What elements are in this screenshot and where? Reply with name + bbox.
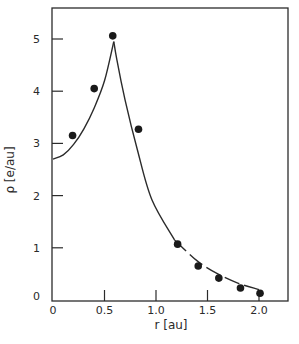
theory-curve (53, 42, 259, 290)
x-tick-label: 2.0 (250, 304, 268, 317)
plot-frame (52, 8, 288, 301)
y-tick-label: 2 (30, 189, 40, 202)
data-point (90, 85, 98, 93)
y-tick-label: 1 (30, 241, 40, 254)
plot-area (0, 0, 299, 344)
data-point (215, 274, 223, 282)
x-axis-label: r [au] (154, 318, 187, 332)
data-point (69, 132, 77, 140)
data-point (135, 126, 143, 134)
data-point (109, 32, 117, 40)
x-tick-label: 0 (50, 304, 57, 317)
x-tick-label: 1.0 (147, 304, 165, 317)
y-tick-label: 4 (30, 85, 40, 98)
axis-ticks (52, 39, 259, 301)
data-point (256, 289, 264, 297)
x-tick-label: 0.5 (96, 304, 114, 317)
data-points (69, 32, 264, 297)
y-tick-label: 5 (30, 33, 40, 46)
y-axis-label: ρ [e/au] (3, 146, 17, 193)
y-tick-label: 0 (30, 290, 40, 303)
data-point (174, 240, 182, 248)
y-tick-label: 3 (30, 137, 40, 150)
x-tick-label: 1.5 (199, 304, 217, 317)
data-point (237, 284, 245, 292)
data-point (194, 262, 202, 270)
